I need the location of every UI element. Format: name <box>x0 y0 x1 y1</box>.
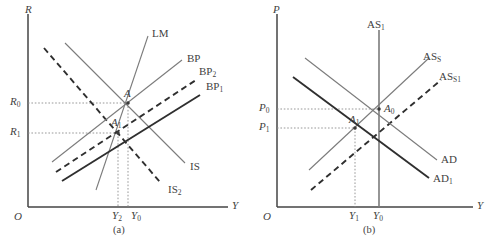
x-tick-Y2: Y2 <box>112 210 122 221</box>
point-label-A1-b-text: A <box>349 113 356 125</box>
point-label-A1-b: A1 <box>349 114 359 125</box>
axis-label-Y-b: Y <box>477 200 483 211</box>
y-tick-P1-sub: 1 <box>266 125 270 134</box>
origin-label-a: O <box>14 211 22 222</box>
origin-label-b: O <box>263 211 271 222</box>
point-label-A0: A0 <box>384 103 394 114</box>
curve-label-AD-text: AD <box>441 153 457 165</box>
panel-b: P Y O P0 P1 Y1 Y0 AS1 ASS ASS1 AD AD1 A0… <box>251 0 502 246</box>
point-label-A0-text: A <box>384 102 391 114</box>
curve-label-BP1: BP1 <box>206 81 223 92</box>
axis-label-R: R <box>25 4 32 15</box>
panel-a: R Y O R0 R1 Y2 Y0 LM BP BP2 BP1 IS IS2 A… <box>0 0 251 246</box>
x-tick-Y2-sub: 2 <box>118 214 122 223</box>
curve-label-AD1-sub: 1 <box>449 177 453 186</box>
curve-label-BP1-sub: 1 <box>219 85 223 94</box>
curve-label-AS1: AS1 <box>367 19 385 30</box>
x-tick-Y1-b-sub: 1 <box>355 214 359 223</box>
y-tick-R0-sub: 0 <box>17 100 21 109</box>
curve-label-IS2: IS2 <box>168 184 182 195</box>
axis-label-P: P <box>273 4 280 15</box>
curve-label-BP-text: BP <box>187 52 200 64</box>
curve-AD1 <box>293 77 429 178</box>
point-label-A1-a-sub: 1 <box>118 121 122 130</box>
curve-label-ASS-text: AS <box>423 50 437 62</box>
curve-label-BP2-text: BP <box>199 65 212 77</box>
point-label-A0-sub: 0 <box>391 107 395 116</box>
x-tick-Y0-a-sub: 0 <box>137 214 141 223</box>
curve-label-AS1-text: AS <box>367 18 381 30</box>
curve-label-ASS-sub: S <box>437 55 441 64</box>
y-tick-P1-text: P <box>259 120 266 132</box>
curve-label-IS2-text: IS <box>168 183 178 195</box>
point-label-A-text: A <box>124 87 131 99</box>
y-tick-R1-sub: 1 <box>17 130 21 139</box>
x-tick-Y0-b: Y0 <box>373 210 383 221</box>
curve-label-LM-text: LM <box>152 27 169 39</box>
x-tick-Y0-b-sub: 0 <box>379 214 383 223</box>
y-tick-R1: R1 <box>10 126 20 137</box>
y-tick-R1-text: R <box>10 125 17 137</box>
curve-label-IS: IS <box>190 161 200 172</box>
panel-a-svg <box>0 0 251 246</box>
y-tick-R0: R0 <box>10 96 20 107</box>
y-tick-P0-text: P <box>259 101 266 113</box>
curve-label-ASS1-sub: S1 <box>453 75 461 84</box>
x-tick-Y0-a: Y0 <box>131 210 141 221</box>
axis-label-Y-a: Y <box>232 200 238 211</box>
y-tick-P0: P0 <box>259 102 269 113</box>
curve-label-IS-text: IS <box>190 160 200 172</box>
curve-label-BP2-sub: 2 <box>212 70 216 79</box>
point-A-dot <box>126 101 130 105</box>
x-tick-Y1-b: Y1 <box>349 210 359 221</box>
curve-label-AS1-sub: 1 <box>381 23 385 32</box>
y-tick-P1: P1 <box>259 121 269 132</box>
curve-label-IS2-sub: 2 <box>178 188 182 197</box>
caption-a: (a) <box>113 224 125 235</box>
curve-label-AD1: AD1 <box>433 173 453 184</box>
point-label-A1-a-text: A <box>111 116 118 128</box>
point-A1-dot <box>116 131 120 135</box>
y-tick-P0-sub: 0 <box>266 106 270 115</box>
y-tick-R0-text: R <box>10 95 17 107</box>
curve-label-BP: BP <box>187 53 200 64</box>
curve-label-AD: AD <box>441 154 457 165</box>
curve-label-ASS1: ASS1 <box>439 71 461 82</box>
curve-label-AD1-text: AD <box>433 172 449 184</box>
point-A0-dot <box>377 107 381 111</box>
curve-label-ASS: ASS <box>423 51 441 62</box>
point-label-A1-a: A1 <box>111 117 121 128</box>
curve-label-ASS1-text: AS <box>439 70 453 82</box>
caption-b: (b) <box>363 224 375 235</box>
curve-label-BP2: BP2 <box>199 66 216 77</box>
curve-label-BP1-text: BP <box>206 80 219 92</box>
point-label-A1-b-sub: 1 <box>356 118 360 127</box>
curve-label-LM: LM <box>152 28 169 39</box>
point-label-A: A <box>124 88 131 99</box>
curve-LM <box>96 36 148 190</box>
